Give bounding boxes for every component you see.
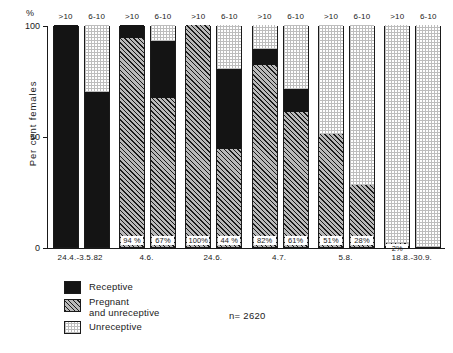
bar-segment-receptive <box>151 41 175 99</box>
segment-value-label: 28% <box>351 236 373 245</box>
bar-segment-pregnant: 94 % <box>120 38 144 247</box>
legend-item: Pregnantand unreceptive <box>64 297 324 318</box>
segment-value-label: 67% <box>152 236 174 245</box>
legend-label: Receptive <box>89 282 133 293</box>
bar: 6-1067% <box>150 26 176 248</box>
legend-swatch-receptive <box>64 281 81 294</box>
bar: 6-1044 % <box>216 26 242 248</box>
bar-segment-unreceptive <box>416 25 440 247</box>
bar-group-label: 6-10 <box>155 12 172 21</box>
segment-value-label: 94 % <box>121 236 143 245</box>
bar-group-label: >10 <box>59 12 73 21</box>
bar-segment-pregnant: 100% <box>186 25 210 247</box>
y-axis-tick-label: 0 <box>18 243 40 253</box>
segment-value-label: 44 % <box>218 236 240 245</box>
bar-segment-unreceptive <box>85 25 109 92</box>
segment-value-label: 82% <box>254 236 276 245</box>
bar-segment-pregnant: 28% <box>350 185 374 247</box>
bar: >102% <box>384 26 410 248</box>
bar-segment-pregnant: 51% <box>319 134 343 247</box>
x-axis-group-label: 4.6. <box>113 253 179 262</box>
x-axis-group-label: 5.8. <box>312 253 378 262</box>
bar-segment-unreceptive <box>385 25 409 243</box>
legend-label: Unreceptive <box>89 322 142 333</box>
x-axis-group-label: 4.7. <box>246 253 312 262</box>
segment-value-label: 100% <box>187 236 209 245</box>
segment-value-label: 51% <box>320 236 342 245</box>
bar-segment-receptive <box>284 89 308 111</box>
bar-segment-receptive <box>85 92 109 247</box>
bar-segment-pregnant: 44 % <box>217 149 241 247</box>
bar-group-label: >10 <box>125 12 139 21</box>
bar-segment-receptive <box>120 25 144 38</box>
y-axis-unit: % <box>26 8 34 18</box>
bar: 6-1061% <box>283 26 309 248</box>
x-axis-group-label: 18.8.-30.9. <box>379 253 445 262</box>
bar-segment-pregnant: 82% <box>253 65 277 247</box>
bar: 6-10 <box>415 26 441 248</box>
legend-item: Receptive <box>64 281 324 294</box>
bar-segment-receptive <box>253 49 277 65</box>
y-axis-title: Per cent females <box>27 49 38 199</box>
bar-segment-unreceptive <box>217 25 241 69</box>
segment-value-label: 61% <box>285 236 307 245</box>
bar-segment-unreceptive <box>151 25 175 41</box>
x-axis-line <box>47 248 445 249</box>
bar-group-label: 6-10 <box>420 12 437 21</box>
bar-group-label: >10 <box>324 12 338 21</box>
bar-segment-unreceptive <box>350 25 374 185</box>
legend-swatch-pregnant <box>64 299 81 312</box>
bar-segment-unreceptive <box>284 25 308 89</box>
bar-segment-unreceptive <box>253 25 277 49</box>
bar-group-label: 6-10 <box>88 12 105 21</box>
legend-label: Pregnantand unreceptive <box>89 297 160 318</box>
bar-segment-receptive <box>54 25 78 247</box>
bar-group-label: 6-10 <box>221 12 238 21</box>
bar-group-label: 6-10 <box>287 12 304 21</box>
bar: >1094 % <box>119 26 145 248</box>
bar-group-label: >10 <box>390 12 404 21</box>
bar-segment-pregnant: 2% <box>385 243 409 247</box>
bar-segment-pregnant: 61% <box>284 112 308 247</box>
bar-segment-pregnant: 67% <box>151 98 175 247</box>
y-axis-tick-label: 50 <box>18 132 40 142</box>
sample-size-annotation: n= 2620 <box>229 310 266 321</box>
bar-group-label: 6-10 <box>354 12 371 21</box>
bar: >1082% <box>252 26 278 248</box>
plot-area: >106-10>1094 %6-1067%>10100%6-1044 %>108… <box>47 26 445 248</box>
stacked-bar-chart: % Per cent females 100500 >106-10>1094 %… <box>0 0 453 353</box>
x-axis-group-label: 24.4.-3.5.82 <box>47 253 113 262</box>
legend-swatch-unreceptive <box>64 321 81 334</box>
bar: >1051% <box>318 26 344 248</box>
bar-segment-receptive <box>217 69 241 149</box>
bar: 6-10 <box>84 26 110 248</box>
bar: 6-1028% <box>349 26 375 248</box>
x-axis-group-label: 24.6. <box>180 253 246 262</box>
bar: >10100% <box>185 26 211 248</box>
legend: ReceptivePregnantand unreceptiveUnrecept… <box>64 281 324 337</box>
bar-group-label: >10 <box>191 12 205 21</box>
bar-group-label: >10 <box>258 12 272 21</box>
y-axis-tick-label: 100 <box>18 21 40 31</box>
bar: >10 <box>53 26 79 248</box>
bar-segment-unreceptive <box>319 25 343 134</box>
legend-item: Unreceptive <box>64 321 324 334</box>
